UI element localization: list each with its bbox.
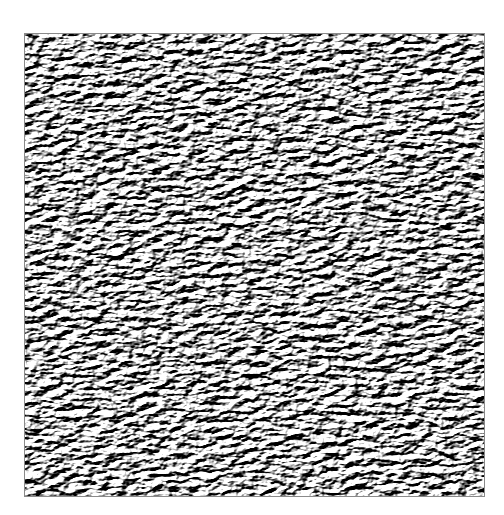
noise-texture-panel bbox=[24, 33, 485, 497]
embossed-noise-texture bbox=[25, 34, 484, 496]
image-canvas bbox=[0, 0, 504, 515]
